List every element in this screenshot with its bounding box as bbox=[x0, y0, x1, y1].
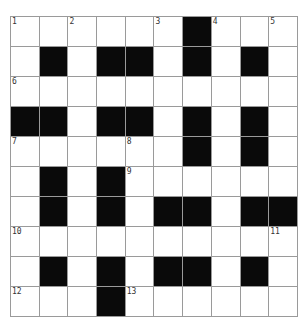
crossword-cell[interactable] bbox=[68, 197, 97, 227]
crossword-cell[interactable] bbox=[154, 287, 183, 317]
black-square bbox=[183, 257, 212, 287]
crossword-cell[interactable] bbox=[68, 47, 97, 77]
crossword-cell[interactable]: 8 bbox=[126, 137, 155, 167]
crossword-cell[interactable] bbox=[11, 47, 40, 77]
black-square bbox=[241, 107, 270, 137]
crossword-cell[interactable] bbox=[269, 107, 298, 137]
crossword-cell[interactable] bbox=[126, 257, 155, 287]
crossword-cell[interactable] bbox=[11, 257, 40, 287]
crossword-cell[interactable] bbox=[212, 197, 241, 227]
crossword-cell[interactable]: 1 bbox=[11, 17, 40, 47]
crossword-cell[interactable] bbox=[40, 227, 69, 257]
crossword-cell[interactable]: 2 bbox=[68, 17, 97, 47]
crossword-cell[interactable]: 6 bbox=[11, 77, 40, 107]
crossword-cell[interactable] bbox=[183, 287, 212, 317]
clue-number: 8 bbox=[127, 138, 132, 146]
black-square bbox=[183, 17, 212, 47]
crossword-cell[interactable] bbox=[68, 107, 97, 137]
crossword-cell[interactable] bbox=[241, 287, 270, 317]
crossword-cell[interactable] bbox=[11, 197, 40, 227]
black-square bbox=[241, 257, 270, 287]
crossword-cell[interactable] bbox=[126, 197, 155, 227]
black-square bbox=[97, 257, 126, 287]
crossword-cell[interactable] bbox=[269, 167, 298, 197]
black-square bbox=[183, 137, 212, 167]
black-square bbox=[11, 107, 40, 137]
crossword-cell[interactable] bbox=[269, 257, 298, 287]
black-square bbox=[183, 197, 212, 227]
black-square bbox=[241, 47, 270, 77]
crossword-grid: 12345678910111213 bbox=[10, 16, 298, 317]
crossword-cell[interactable] bbox=[212, 287, 241, 317]
crossword-cell[interactable] bbox=[154, 137, 183, 167]
crossword-cell[interactable] bbox=[68, 257, 97, 287]
crossword-cell[interactable] bbox=[68, 137, 97, 167]
black-square bbox=[183, 47, 212, 77]
crossword-cell[interactable] bbox=[97, 17, 126, 47]
black-square bbox=[97, 287, 126, 317]
crossword-cell[interactable] bbox=[154, 77, 183, 107]
crossword-cell[interactable] bbox=[154, 167, 183, 197]
clue-number: 5 bbox=[270, 18, 275, 26]
crossword-cell[interactable] bbox=[212, 167, 241, 197]
crossword-cell[interactable]: 7 bbox=[11, 137, 40, 167]
crossword-cell[interactable] bbox=[126, 17, 155, 47]
crossword-cell[interactable] bbox=[269, 287, 298, 317]
crossword-cell[interactable]: 5 bbox=[269, 17, 298, 47]
crossword-cell[interactable] bbox=[269, 137, 298, 167]
crossword-cell[interactable] bbox=[97, 137, 126, 167]
black-square bbox=[97, 47, 126, 77]
crossword-cell[interactable] bbox=[241, 17, 270, 47]
black-square bbox=[154, 197, 183, 227]
clue-number: 3 bbox=[155, 18, 160, 26]
crossword-cell[interactable] bbox=[183, 77, 212, 107]
crossword-cell[interactable] bbox=[183, 167, 212, 197]
crossword-cell[interactable] bbox=[126, 227, 155, 257]
crossword-cell[interactable] bbox=[97, 227, 126, 257]
crossword-cell[interactable] bbox=[68, 167, 97, 197]
crossword-cell[interactable] bbox=[40, 77, 69, 107]
crossword-cell[interactable] bbox=[241, 167, 270, 197]
crossword-cell[interactable] bbox=[40, 137, 69, 167]
crossword-cell[interactable] bbox=[212, 77, 241, 107]
crossword-cell[interactable] bbox=[154, 227, 183, 257]
crossword-cell[interactable]: 13 bbox=[126, 287, 155, 317]
crossword-cell[interactable] bbox=[11, 167, 40, 197]
crossword-cell[interactable] bbox=[212, 137, 241, 167]
crossword-cell[interactable] bbox=[269, 77, 298, 107]
crossword-cell[interactable] bbox=[212, 227, 241, 257]
black-square bbox=[97, 107, 126, 137]
crossword-cell[interactable] bbox=[183, 227, 212, 257]
crossword-cell[interactable] bbox=[40, 17, 69, 47]
crossword-cell[interactable] bbox=[154, 107, 183, 137]
crossword-cell[interactable] bbox=[241, 77, 270, 107]
clue-number: 2 bbox=[69, 18, 74, 26]
crossword-cell[interactable]: 9 bbox=[126, 167, 155, 197]
crossword-cell[interactable]: 12 bbox=[11, 287, 40, 317]
crossword-cell[interactable]: 11 bbox=[269, 227, 298, 257]
crossword-cell[interactable] bbox=[68, 227, 97, 257]
crossword-cell[interactable] bbox=[241, 227, 270, 257]
clue-number: 1 bbox=[12, 18, 17, 26]
crossword-cell[interactable] bbox=[212, 107, 241, 137]
crossword-cell[interactable] bbox=[269, 47, 298, 77]
black-square bbox=[154, 257, 183, 287]
crossword-cell[interactable] bbox=[126, 77, 155, 107]
black-square bbox=[183, 107, 212, 137]
crossword-cell[interactable]: 10 bbox=[11, 227, 40, 257]
clue-number: 11 bbox=[270, 228, 280, 236]
clue-number: 12 bbox=[12, 288, 22, 296]
crossword-cell[interactable]: 4 bbox=[212, 17, 241, 47]
crossword-cell[interactable] bbox=[40, 287, 69, 317]
black-square bbox=[40, 107, 69, 137]
clue-number: 13 bbox=[127, 288, 137, 296]
crossword-cell[interactable] bbox=[68, 77, 97, 107]
clue-number: 9 bbox=[127, 168, 132, 176]
crossword-cell[interactable] bbox=[212, 47, 241, 77]
crossword-cell[interactable] bbox=[68, 287, 97, 317]
crossword-cell[interactable] bbox=[97, 77, 126, 107]
crossword-cell[interactable]: 3 bbox=[154, 17, 183, 47]
crossword-cell[interactable] bbox=[154, 47, 183, 77]
crossword-cell[interactable] bbox=[212, 257, 241, 287]
black-square bbox=[97, 197, 126, 227]
